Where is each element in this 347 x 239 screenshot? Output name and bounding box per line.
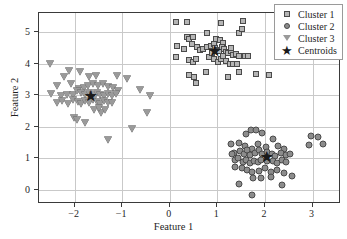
data-point-cluster-2 xyxy=(258,174,265,181)
gridline-horizontal xyxy=(39,158,339,159)
gridline-vertical xyxy=(75,13,76,202)
gridline-vertical xyxy=(170,13,171,202)
data-point-cluster-2 xyxy=(288,172,295,179)
data-point-cluster-2 xyxy=(280,170,287,177)
cluster-3-triangle-down-icon xyxy=(279,35,295,41)
data-point-cluster-2 xyxy=(278,182,285,189)
data-point-cluster-3 xyxy=(143,110,151,117)
data-point-cluster-3 xyxy=(67,80,75,87)
y-axis-tick xyxy=(34,126,38,127)
data-point-cluster-3 xyxy=(73,117,81,124)
x-axis-tick xyxy=(216,203,217,207)
data-point-cluster-2 xyxy=(305,142,312,149)
x-axis-tick-label: 1 xyxy=(214,208,219,219)
y-axis-tick-label: 0 xyxy=(14,183,30,194)
data-point-cluster-3 xyxy=(92,72,100,79)
y-axis-tick xyxy=(34,94,38,95)
data-point-cluster-1 xyxy=(203,69,209,75)
data-point-cluster-3 xyxy=(101,107,109,114)
data-point-cluster-2 xyxy=(286,151,293,158)
y-axis-tick xyxy=(34,31,38,32)
data-point-cluster-1 xyxy=(245,53,251,59)
x-axis-tick-label: 2 xyxy=(261,208,266,219)
data-point-cluster-1 xyxy=(218,20,224,26)
data-point-cluster-3 xyxy=(104,136,112,143)
data-point-cluster-2 xyxy=(269,135,276,142)
data-point-cluster-1 xyxy=(173,19,179,25)
x-axis-tick xyxy=(121,203,122,207)
centroid-marker: ★ xyxy=(208,46,221,56)
cluster-1-square-icon xyxy=(279,11,295,17)
data-point-cluster-3 xyxy=(46,61,54,68)
legend-label: Cluster 1 xyxy=(295,9,334,20)
x-axis-tick xyxy=(74,203,75,207)
data-point-cluster-1 xyxy=(234,61,240,67)
data-point-cluster-1 xyxy=(228,45,234,51)
x-axis-label: Feature 1 xyxy=(0,221,347,232)
data-point-cluster-1 xyxy=(240,18,246,24)
data-point-cluster-1 xyxy=(184,19,190,25)
x-axis-tick-label: 3 xyxy=(309,208,314,219)
data-point-cluster-2 xyxy=(228,141,235,148)
legend-item-cluster-2[interactable]: Cluster 2 xyxy=(279,20,337,32)
data-point-cluster-2 xyxy=(319,141,326,148)
data-point-cluster-1 xyxy=(193,80,199,86)
data-point-cluster-1 xyxy=(174,43,180,49)
legend: Cluster 1 Cluster 2 Cluster 3 ★ Centroid… xyxy=(274,4,343,60)
data-point-cluster-2 xyxy=(283,159,290,166)
x-axis-tick xyxy=(169,203,170,207)
x-axis-tick-label: −2 xyxy=(68,208,79,219)
data-point-cluster-3 xyxy=(112,90,120,97)
y-axis-tick xyxy=(34,157,38,158)
x-axis-tick xyxy=(312,203,313,207)
gridline-vertical xyxy=(122,13,123,202)
gridline-horizontal xyxy=(39,190,339,191)
legend-label: Cluster 2 xyxy=(295,21,334,32)
data-point-cluster-1 xyxy=(190,34,196,40)
data-point-cluster-2 xyxy=(248,191,255,198)
data-point-cluster-2 xyxy=(315,133,322,140)
data-point-cluster-2 xyxy=(258,130,265,137)
data-point-cluster-1 xyxy=(204,30,210,36)
y-axis-tick xyxy=(34,189,38,190)
legend-item-centroids[interactable]: ★ Centroids xyxy=(279,44,337,56)
data-point-cluster-2 xyxy=(236,181,243,188)
data-point-cluster-1 xyxy=(181,46,187,52)
data-point-cluster-3 xyxy=(113,72,121,79)
data-point-cluster-1 xyxy=(236,69,242,75)
data-point-cluster-2 xyxy=(250,175,257,182)
centroid-marker: ★ xyxy=(260,152,273,162)
data-point-cluster-1 xyxy=(173,54,179,60)
gridline-horizontal xyxy=(39,127,339,128)
data-point-cluster-1 xyxy=(253,71,259,77)
y-axis-tick-label: 3 xyxy=(14,89,30,100)
legend-item-cluster-1[interactable]: Cluster 1 xyxy=(279,8,337,20)
scatter-plot-figure: ★★★ Feature 1 Feature 2 Cluster 1 Cluste… xyxy=(0,0,347,239)
gridline-vertical xyxy=(265,13,266,202)
data-point-cluster-1 xyxy=(225,74,231,80)
data-point-cluster-2 xyxy=(307,133,314,140)
y-axis-tick-label: 1 xyxy=(14,152,30,163)
centroid-star-icon: ★ xyxy=(279,45,295,56)
data-point-cluster-2 xyxy=(242,131,249,138)
data-point-cluster-1 xyxy=(239,26,245,32)
x-axis-tick-label: 0 xyxy=(166,208,171,219)
data-point-cluster-3 xyxy=(128,125,136,132)
data-point-cluster-3 xyxy=(108,99,116,106)
y-axis-tick-label: 5 xyxy=(14,25,30,36)
data-point-cluster-3 xyxy=(146,93,154,100)
x-axis-tick-label: −1 xyxy=(116,208,127,219)
y-axis-tick-label: 2 xyxy=(14,120,30,131)
data-point-cluster-3 xyxy=(53,83,61,90)
cluster-2-circle-icon xyxy=(279,23,295,29)
legend-label: Cluster 3 xyxy=(295,33,334,44)
y-axis-tick xyxy=(34,63,38,64)
data-point-cluster-3 xyxy=(136,87,144,94)
data-point-cluster-2 xyxy=(267,174,274,181)
y-axis-tick-label: 4 xyxy=(14,57,30,68)
data-point-cluster-1 xyxy=(193,56,199,62)
legend-label: Centroids xyxy=(295,45,337,56)
data-point-cluster-1 xyxy=(266,72,272,78)
data-point-cluster-3 xyxy=(123,75,131,82)
x-axis-tick xyxy=(264,203,265,207)
